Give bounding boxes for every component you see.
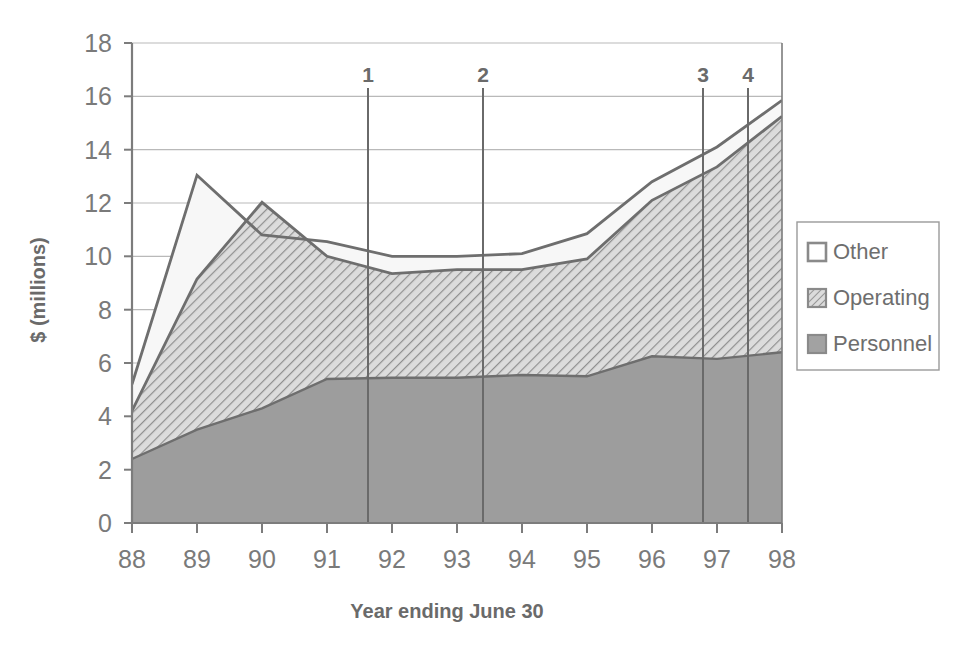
x-tick-label-91: 91 — [313, 545, 341, 573]
x-tick-label-89: 89 — [183, 545, 211, 573]
y-tick-label-2: 2 — [98, 456, 112, 484]
legend-swatch-personnel — [808, 335, 826, 353]
legend: Other Operating Personnel — [797, 222, 939, 370]
y-tick-label-10: 10 — [84, 242, 112, 270]
y-tick-label-12: 12 — [84, 189, 112, 217]
y-tick-marks — [124, 43, 132, 523]
y-tick-label-6: 6 — [98, 349, 112, 377]
y-tick-label-14: 14 — [84, 136, 112, 164]
y-tick-label-18: 18 — [84, 29, 112, 57]
x-tick-label-98: 98 — [768, 545, 796, 573]
legend-swatch-other — [808, 243, 826, 261]
x-tick-marks — [132, 523, 782, 533]
x-tick-label-95: 95 — [573, 545, 601, 573]
x-tick-label-88: 88 — [118, 545, 146, 573]
annotation-label-1: 1 — [362, 63, 374, 86]
annotation-label-2: 2 — [477, 63, 489, 86]
x-tick-label-97: 97 — [703, 545, 731, 573]
legend-label-operating: Operating — [833, 285, 930, 310]
stacked-area-chart: 1 2 3 4 18 16 14 12 10 8 6 — [0, 0, 978, 649]
annotation-label-3: 3 — [697, 63, 709, 86]
x-tick-label-90: 90 — [248, 545, 276, 573]
y-tick-label-8: 8 — [98, 296, 112, 324]
y-tick-label-0: 0 — [98, 509, 112, 537]
chart-container: 1 2 3 4 18 16 14 12 10 8 6 — [0, 0, 978, 649]
x-tick-label-92: 92 — [378, 545, 406, 573]
x-axis-title: Year ending June 30 — [350, 600, 543, 622]
x-tick-label-96: 96 — [638, 545, 666, 573]
y-tick-label-4: 4 — [98, 402, 112, 430]
y-axis-title: $ (millions) — [27, 237, 49, 343]
x-tick-label-93: 93 — [443, 545, 471, 573]
x-tick-label-94: 94 — [508, 545, 536, 573]
legend-swatch-operating — [808, 289, 826, 307]
legend-label-other: Other — [833, 239, 888, 264]
legend-label-personnel: Personnel — [833, 331, 932, 356]
y-tick-label-16: 16 — [84, 82, 112, 110]
annotation-label-4: 4 — [742, 63, 754, 86]
